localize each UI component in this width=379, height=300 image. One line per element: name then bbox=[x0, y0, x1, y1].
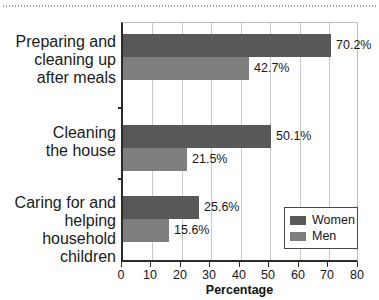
x-tick-label-40: 40 bbox=[224, 268, 254, 282]
category-label-line: after meals bbox=[0, 69, 116, 87]
category-label-line: cleaning up bbox=[0, 51, 116, 69]
category-label-line: Preparing and bbox=[0, 33, 116, 51]
bar-men-meals bbox=[123, 57, 249, 80]
x-tick-label-10: 10 bbox=[135, 268, 165, 282]
bar-value-men-children: 15.6% bbox=[169, 219, 209, 242]
x-tick-mark-30 bbox=[209, 262, 210, 267]
x-tick-label-80: 80 bbox=[342, 268, 372, 282]
category-label-line: Caring for and bbox=[0, 194, 116, 212]
x-axis-title: Percentage bbox=[121, 283, 358, 297]
bar-men-children bbox=[123, 219, 169, 242]
x-tick-mark-70 bbox=[327, 262, 328, 267]
legend-item-women: Women bbox=[290, 212, 352, 228]
x-tick-label-0: 0 bbox=[106, 268, 136, 282]
bar-value-men-cleaning: 21.5% bbox=[187, 148, 227, 171]
legend-swatch-men-icon bbox=[290, 232, 306, 241]
category-label-line: children bbox=[0, 248, 116, 266]
y-axis-tick bbox=[118, 107, 123, 109]
x-tick-mark-0 bbox=[121, 262, 122, 267]
bar-value-women-cleaning: 50.1% bbox=[271, 125, 311, 148]
category-label-0: Preparing and cleaning up after meals bbox=[0, 33, 116, 87]
x-tick-mark-60 bbox=[298, 262, 299, 267]
x-tick-label-50: 50 bbox=[253, 268, 283, 282]
x-tick-label-60: 60 bbox=[283, 268, 313, 282]
x-tick-mark-20 bbox=[180, 262, 181, 267]
category-label-2: Caring for and helping household childre… bbox=[0, 194, 116, 266]
y-axis-tick bbox=[118, 178, 123, 180]
category-label-1: Cleaning the house bbox=[0, 124, 116, 160]
x-tick-label-20: 20 bbox=[165, 268, 195, 282]
bar-chart-figure: Preparing and cleaning up after meals Cl… bbox=[0, 0, 379, 300]
bar-men-cleaning bbox=[123, 148, 187, 171]
x-tick-mark-50 bbox=[268, 262, 269, 267]
plot-area: 70.2% 42.7% 50.1% 21.5% 25.6% 15.6% Wome… bbox=[121, 22, 358, 262]
x-tick-mark-40 bbox=[239, 262, 240, 267]
bar-value-women-meals: 70.2% bbox=[331, 34, 371, 57]
x-tick-label-70: 70 bbox=[312, 268, 342, 282]
x-tick-mark-10 bbox=[150, 262, 151, 267]
legend-label-men: Men bbox=[312, 228, 336, 244]
legend-item-men: Men bbox=[290, 228, 352, 244]
chart-legend: Women Men bbox=[284, 207, 358, 249]
bar-women-meals bbox=[123, 34, 331, 57]
scan-artifact-dotted-line bbox=[3, 5, 376, 7]
bar-women-cleaning bbox=[123, 125, 271, 148]
x-tick-mark-80 bbox=[357, 262, 358, 267]
bar-women-children bbox=[123, 196, 199, 219]
bar-value-men-meals: 42.7% bbox=[249, 57, 289, 80]
legend-label-women: Women bbox=[312, 212, 355, 228]
category-label-line: helping household bbox=[0, 212, 116, 248]
x-tick-label-30: 30 bbox=[194, 268, 224, 282]
bar-value-women-children: 25.6% bbox=[199, 196, 239, 219]
category-label-line: Cleaning bbox=[0, 124, 116, 142]
category-label-line: the house bbox=[0, 142, 116, 160]
legend-swatch-women-icon bbox=[290, 216, 306, 225]
